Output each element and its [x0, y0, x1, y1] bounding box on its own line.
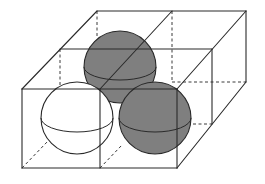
hidden-bottom-left-diagonal: [22, 141, 48, 168]
hidden-bottom-center-diagonal: [100, 145, 122, 168]
sphere-front-right: [119, 82, 191, 154]
sphere-front-right-body: [119, 82, 191, 154]
sphere-front-left-body: [41, 82, 113, 154]
box-with-spheres-figure: [0, 0, 265, 184]
sphere-front-left: [41, 82, 113, 154]
